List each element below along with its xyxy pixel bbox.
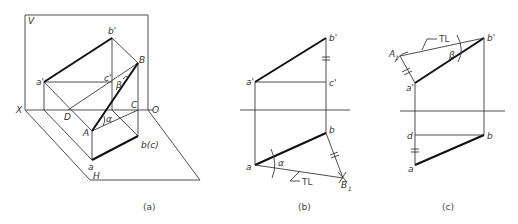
label-X: X [15,105,23,115]
line-a-prime-b-prime [44,38,112,82]
label-O: O [152,105,159,115]
label-bc: b(c) [141,140,159,150]
line-a-B1-TL [255,165,343,178]
panel-b: b' a' c' b a α TL B 1 (b) [240,33,352,212]
label-a-prime: a' [36,77,44,87]
label-TL-c: TL [438,34,450,44]
label-b-prime-c: b' [487,33,495,43]
line-ab [92,136,138,160]
label-D: D [64,112,71,122]
label-b-prime: b' [108,26,116,36]
label-a-prime-c: a' [406,83,414,93]
label-alpha-b: α [278,158,284,168]
label-TL-b: TL [301,177,313,187]
tick-mark [404,71,412,75]
label-beta: β [115,80,122,90]
line-ab-c [415,135,484,165]
line-D-B [68,63,138,110]
label-H: H [93,171,100,181]
line-a-prime-b-prime-c [415,38,484,83]
line-a-prime-b-prime-b [255,38,326,82]
v-plane [25,15,148,110]
panel-a: V X O H b' a' c' B β D C α A b(c) a (a) [15,15,200,212]
label-c-prime: c' [104,73,111,83]
beta-arc-c [457,35,461,62]
alpha-arc [103,116,105,126]
label-V: V [28,16,35,26]
projection-diagram: V X O H b' a' c' B β D C α A b(c) a (a) [0,0,518,224]
label-A1-sub: 1 [395,54,399,61]
label-a: a [88,162,94,172]
label-b-b: b [329,125,335,135]
panel-c: b' A 1 TL β a' d b a (c) [388,33,505,212]
label-b-c: b [487,131,493,141]
line-bx-b [112,110,138,136]
label-b-prime-b: b' [329,33,337,43]
line-b-prime-B [112,38,138,63]
label-beta-c: β [448,50,455,60]
tl-leader [290,172,300,181]
label-B1-sub: 1 [348,185,352,192]
label-a-b: a [246,162,252,172]
label-C: C [131,100,138,110]
label-c-prime-b: c' [329,78,336,88]
label-a-prime-b: a' [246,77,254,87]
label-A: A [82,128,89,138]
caption-b: (b) [298,202,311,212]
label-d-c: d [407,131,413,141]
label-B: B [139,55,145,65]
line-ab-b [255,133,326,165]
caption-a: (a) [143,202,156,212]
label-B1: B [341,180,347,190]
label-alpha: α [106,114,112,124]
label-a-c: a [408,164,414,174]
line-a-prime-A [44,82,92,131]
caption-c: (c) [442,202,454,212]
line-b-B1 [326,133,343,178]
alpha-arc-b [271,149,275,178]
